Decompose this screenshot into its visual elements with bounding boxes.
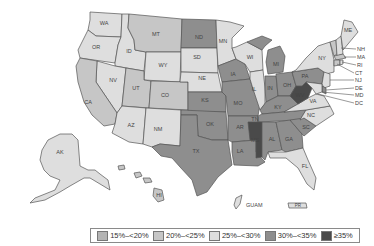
svg-text:MD: MD [355,92,364,98]
legend-label: ≥35% [334,231,353,240]
legend-swatch [97,231,108,241]
svg-text:CO: CO [161,92,170,98]
svg-text:MI: MI [273,61,280,67]
svg-text:NJ: NJ [355,77,362,83]
svg-text:KS: KS [201,97,209,103]
legend-item-35-plus: ≥35% [321,231,353,241]
svg-text:DE: DE [355,85,363,91]
svg-text:NM: NM [154,126,163,132]
legend-swatch [265,231,276,241]
svg-text:LA: LA [237,148,244,154]
legend-swatch [153,231,164,241]
svg-text:ID: ID [126,48,132,54]
svg-text:NV: NV [109,77,117,83]
svg-text:AZ: AZ [127,122,135,128]
svg-text:DC: DC [355,100,363,106]
svg-text:AR: AR [236,124,244,130]
svg-text:NH: NH [357,46,365,52]
svg-text:PR: PR [295,203,302,208]
state-hi-4[interactable] [118,165,125,170]
svg-text:MO: MO [234,100,244,106]
svg-text:OH: OH [283,82,291,88]
state-me[interactable] [341,20,358,50]
svg-text:IL: IL [252,86,257,92]
svg-text:IN: IN [267,85,273,91]
svg-text:CA: CA [84,99,92,105]
svg-text:MN: MN [219,38,228,44]
legend-swatch [321,231,332,241]
svg-text:HI: HI [156,192,162,198]
svg-text:GUAM: GUAM [246,202,263,208]
legend-swatch [209,231,220,241]
state-hi-2[interactable] [134,172,142,178]
svg-text:PA: PA [302,73,309,79]
svg-text:AL: AL [269,136,276,142]
legend-item-30-35: 30%–<35% [265,231,317,241]
svg-text:CT: CT [355,70,363,76]
svg-text:RI: RI [357,62,363,68]
svg-text:ND: ND [195,34,203,40]
map-legend: 15%–<20% 20%–<25% 25%–<30% 30%–<35% ≥35% [90,228,360,243]
svg-text:OK: OK [206,121,214,127]
svg-text:NE: NE [198,75,206,81]
svg-text:ME: ME [344,27,353,33]
legend-item-15-20: 15%–<20% [97,231,149,241]
state-hi-3[interactable] [143,178,152,183]
svg-text:SC: SC [302,124,310,130]
svg-text:IA: IA [230,71,236,77]
svg-text:FL: FL [302,163,308,169]
svg-text:TX: TX [192,148,199,154]
svg-text:WV: WV [296,92,305,98]
svg-text:AK: AK [56,149,64,155]
svg-text:TN: TN [251,116,258,122]
svg-text:SD: SD [193,54,201,60]
svg-text:KY: KY [274,104,282,110]
svg-text:NY: NY [318,55,326,61]
legend-item-25-30: 25%–<30% [209,231,261,241]
legend-label: 30%–<35% [278,231,317,240]
legend-label: 15%–<20% [110,231,149,240]
legend-item-20-25: 20%–<25% [153,231,205,241]
state-ak[interactable] [30,134,110,203]
svg-text:MA: MA [357,54,366,60]
state-ri[interactable] [340,60,343,65]
svg-text:WY: WY [159,62,168,68]
svg-text:OR: OR [92,44,100,50]
svg-text:NC: NC [307,112,315,118]
svg-text:MT: MT [152,31,161,37]
svg-text:WA: WA [100,20,109,26]
us-choropleth-map: WA OR ID MT WY NV UT CO CA AZ NM ND SD N… [0,0,374,246]
svg-text:WI: WI [247,54,254,60]
legend-label: 25%–<30% [222,231,261,240]
svg-text:UT: UT [132,85,140,91]
svg-text:MS: MS [251,137,260,143]
svg-text:GA: GA [285,136,293,142]
legend-label: 20%–<25% [166,231,205,240]
svg-text:VA: VA [310,98,317,104]
territory-guam[interactable] [234,195,242,209]
state-mi[interactable] [266,46,285,74]
state-fl[interactable] [268,148,316,190]
state-sd[interactable] [181,48,218,73]
